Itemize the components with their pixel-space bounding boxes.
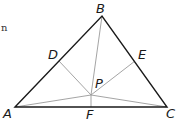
- label-b: B: [96, 1, 105, 16]
- label-f: F: [86, 107, 94, 119]
- segment-pc: [91, 95, 167, 107]
- label-c: C: [166, 106, 176, 119]
- label-d: D: [48, 47, 58, 62]
- cropped-text-fragment: n: [1, 22, 8, 33]
- segment-pd: [59, 61, 91, 95]
- label-a: A: [2, 106, 12, 119]
- label-e: E: [138, 47, 147, 62]
- label-p: P: [95, 76, 103, 91]
- triangle-diagram: n B A C D E P F: [0, 0, 179, 119]
- segment-pa: [15, 95, 91, 107]
